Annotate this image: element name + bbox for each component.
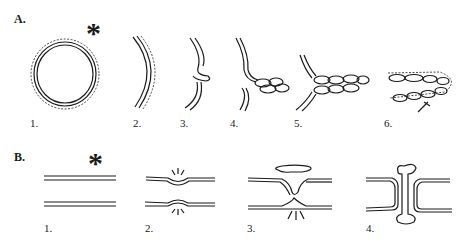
panel-a3-number: 3. bbox=[180, 117, 188, 129]
panel-a6-number: 6. bbox=[384, 117, 392, 129]
panel-b2-membranes bbox=[145, 168, 215, 215]
panel-a5-number: 5. bbox=[294, 117, 302, 129]
panel-a5-chain bbox=[296, 55, 369, 111]
panel-b3-membranes bbox=[248, 165, 332, 220]
panel-a6-chain bbox=[388, 72, 451, 112]
panel-b2-number: 2. bbox=[145, 222, 153, 234]
panel-a1-vesicle bbox=[31, 39, 99, 109]
panel-b1-membranes bbox=[44, 176, 116, 206]
panel-b4-number: 4. bbox=[366, 222, 374, 234]
panel-a3-membrane bbox=[185, 38, 210, 110]
panel-a4-number: 4. bbox=[230, 117, 238, 129]
panel-a2-membrane bbox=[133, 36, 155, 109]
panel-b1-number: 1. bbox=[44, 222, 52, 234]
panel-a4-membrane bbox=[236, 38, 289, 111]
panel-b3-number: 3. bbox=[247, 222, 255, 234]
panel-a1-number: 1. bbox=[30, 117, 38, 129]
panel-a2-number: 2. bbox=[133, 117, 141, 129]
panel-b4-membranes bbox=[366, 164, 452, 224]
